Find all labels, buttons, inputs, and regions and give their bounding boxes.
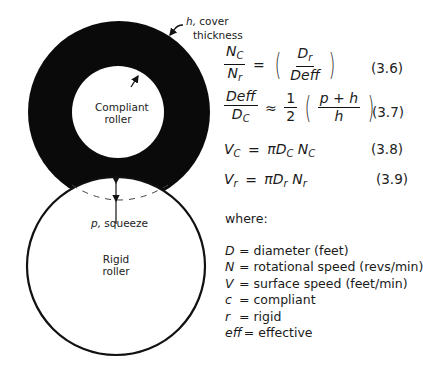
equation-3-6: NC Nr = ( Dr Deff )	[224, 44, 338, 85]
rigid-roller-label: Rigid roller	[96, 253, 136, 277]
squeeze-label: p, squeeze	[91, 217, 148, 229]
cover-thickness-label: h, cover	[186, 15, 229, 27]
coefficient-half: 1 2	[284, 91, 297, 124]
undeformed-cover-outline	[72, 185, 168, 200]
equation-number-3-7: (3.7)	[372, 104, 404, 120]
ratio-nc-nr: NC Nr	[224, 44, 245, 85]
ratio-dr-deff: Dr Deff	[288, 46, 322, 83]
compliant-roller-label: Compliant roller	[95, 101, 141, 125]
definition-item: eff=effective	[225, 325, 423, 341]
definition-item: V=surface speed (feet/min)	[225, 276, 423, 292]
definition-item: r=rigid	[225, 309, 423, 325]
cover-thickness-label-line2: thickness	[193, 29, 243, 41]
cover-thickness-leader	[170, 25, 183, 35]
equation-number-3-8: (3.8)	[371, 141, 403, 157]
ratio-deff-dc: Deff DC	[224, 89, 258, 126]
equation-3-9: Vr = πDr Nr	[224, 171, 307, 189]
equation-3-7: Deff DC ≈ 1 2 ( p + h h )	[224, 89, 376, 126]
definition-item: c=compliant	[225, 292, 423, 308]
equation-number-3-9: (3.9)	[376, 171, 408, 187]
equation-3-8: VC = πDC NC	[224, 141, 315, 159]
definition-item: D=diameter (feet)	[225, 243, 423, 259]
definition-item: N=rotational speed (revs/min)	[225, 259, 423, 275]
equation-number-3-6: (3.6)	[371, 60, 403, 76]
ratio-p-plus-h-over-h: p + h h	[318, 91, 360, 124]
definitions-list: D=diameter (feet) N=rotational speed (re…	[225, 243, 423, 341]
where-label: where:	[225, 211, 268, 227]
